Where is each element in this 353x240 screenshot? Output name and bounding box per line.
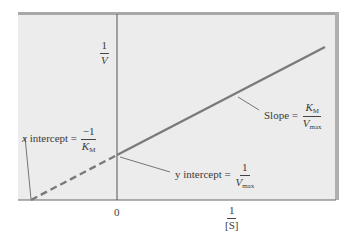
panel-top-border	[18, 12, 338, 15]
panel-right-border	[335, 12, 339, 200]
y-axis-label: 1V	[99, 40, 110, 66]
slope-label: Slope = KMVmax	[264, 102, 324, 132]
origin-label: 0	[114, 206, 120, 218]
y-intercept-label: y intercept = 1Vmax	[175, 162, 256, 190]
x-axis-label: 1[S]	[223, 205, 240, 231]
x-intercept-label: x intercept = −1KM	[22, 126, 97, 154]
